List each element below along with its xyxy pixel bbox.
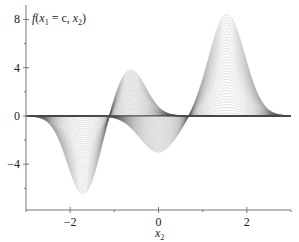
- curve-family: [26, 15, 291, 194]
- y-tick-label: 4: [14, 61, 20, 75]
- y-tick-label: −4: [7, 157, 20, 171]
- curve-family-2-line: [26, 60, 291, 136]
- y-axis-title: f(x1 = c, x2): [32, 11, 86, 27]
- x-tick-label: 2: [244, 215, 250, 229]
- y-tick-label: 8: [14, 12, 20, 26]
- curve-family-2-line: [26, 26, 291, 148]
- x-axis-title: x2: [154, 226, 164, 242]
- chart: 840−4−202 f(x1 = c, x2) x2: [0, 0, 299, 242]
- curve-family-1-line: [26, 76, 291, 183]
- curve-family-1-line: [26, 80, 291, 176]
- x-tick-label: −2: [64, 215, 77, 229]
- y-tick-label: 0: [14, 109, 20, 123]
